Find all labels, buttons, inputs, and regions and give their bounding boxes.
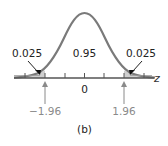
panel-label: (b) [77, 123, 92, 135]
left-critical-arrow [42, 81, 48, 104]
right-tail-pointer [129, 61, 142, 75]
normal-distribution-figure: 0.025 0.95 0.025 z 0 −1.96 1.96 (b) [0, 0, 168, 146]
left-critical-value: −1.96 [29, 105, 61, 117]
right-tail-label: 0.025 [126, 47, 156, 59]
right-critical-value: 1.96 [112, 105, 136, 117]
left-tail-pointer [28, 61, 41, 75]
left-tail-label: 0.025 [12, 47, 42, 59]
z-axis-label: z [153, 72, 160, 85]
right-critical-arrow [121, 81, 127, 104]
center-area-label: 0.95 [73, 47, 96, 59]
bell-curve [14, 13, 155, 78]
zero-tick-label: 0 [81, 83, 88, 95]
